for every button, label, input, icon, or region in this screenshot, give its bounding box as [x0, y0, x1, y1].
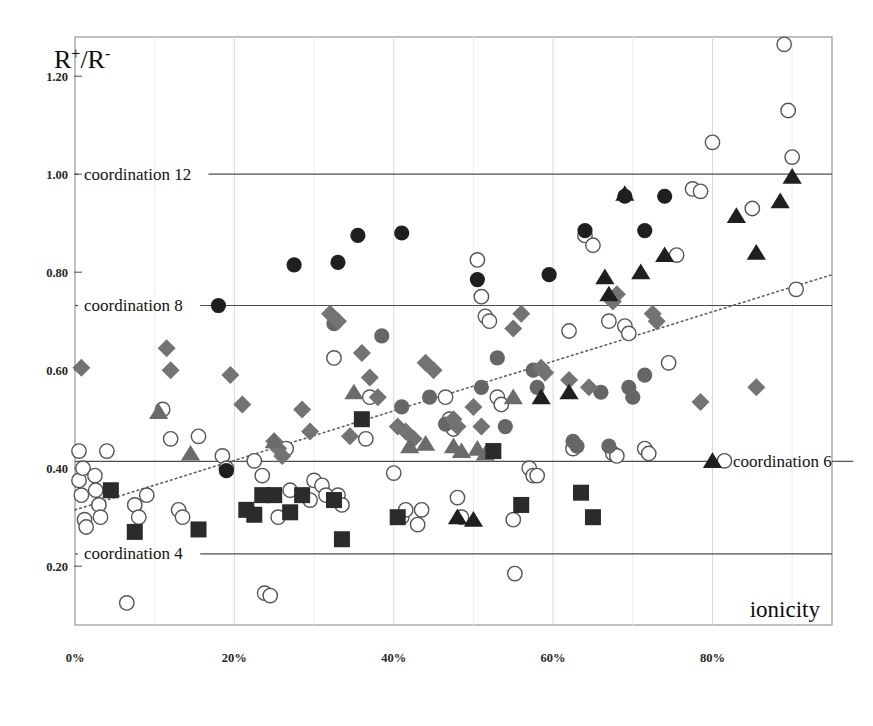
data-point [577, 223, 592, 238]
data-point [89, 483, 103, 497]
data-point [585, 509, 601, 525]
data-point [622, 326, 636, 340]
data-point [354, 411, 370, 427]
ytick-label-1: 1.00 [46, 168, 68, 182]
data-point [390, 509, 406, 525]
data-point [282, 504, 298, 520]
data-point [562, 324, 576, 338]
data-point [266, 487, 282, 503]
coordination-label-0.732: coordination 8 [84, 296, 183, 315]
data-point [219, 463, 234, 478]
data-point [661, 356, 675, 370]
data-point [175, 510, 189, 524]
xtick-label-3: 60% [541, 651, 566, 665]
data-point [508, 566, 522, 580]
data-point [470, 272, 485, 287]
plot-frame [75, 37, 832, 625]
data-point [482, 314, 496, 328]
data-point [745, 201, 759, 215]
data-point [569, 439, 584, 454]
data-point [334, 531, 350, 547]
data-point [573, 485, 589, 501]
data-point [100, 444, 114, 458]
data-point [474, 290, 488, 304]
data-point [140, 488, 154, 502]
data-point [785, 150, 799, 164]
xtick-label-0: 0% [66, 651, 85, 665]
xtick-label-1: 20% [222, 651, 247, 665]
ytick-label-3: 0.60 [46, 364, 68, 378]
data-point [642, 446, 656, 460]
data-point [72, 444, 86, 458]
ytick-label-5: 0.20 [46, 560, 68, 574]
data-point [394, 399, 409, 414]
data-point [211, 298, 226, 313]
data-point [602, 314, 616, 328]
data-point [625, 390, 640, 405]
coordination-label-0.225: coordination 4 [84, 544, 183, 563]
data-point [450, 490, 464, 504]
coordination-label-0.414: coordination 6 [733, 452, 832, 471]
data-point [132, 510, 146, 524]
y-axis-label: R+/R- [54, 45, 110, 74]
data-point [255, 468, 269, 482]
data-point [294, 487, 310, 503]
data-point [490, 350, 505, 365]
data-point [359, 432, 373, 446]
data-point [777, 37, 791, 51]
data-point [513, 497, 529, 513]
data-point [498, 419, 513, 434]
x-axis-label: ionicity [750, 597, 821, 622]
data-point [120, 596, 134, 610]
data-point [326, 492, 342, 508]
data-point [438, 390, 452, 404]
data-point [287, 257, 302, 272]
data-point [374, 328, 389, 343]
data-point [474, 380, 489, 395]
data-point [789, 282, 803, 296]
data-point [330, 255, 345, 270]
data-point [263, 588, 277, 602]
data-point [88, 468, 102, 482]
data-point [530, 468, 544, 482]
data-point [191, 429, 205, 443]
data-point [422, 390, 437, 405]
data-point [637, 223, 652, 238]
data-point [657, 189, 672, 204]
data-point [74, 488, 88, 502]
data-point [617, 189, 632, 204]
data-point [327, 351, 341, 365]
data-point [485, 443, 501, 459]
data-point [693, 184, 707, 198]
data-point [163, 432, 177, 446]
ytick-label-2: 0.80 [46, 266, 68, 280]
data-point [246, 507, 262, 523]
data-point [705, 135, 719, 149]
chart-figure: coordination 12coordination 8coordinatio… [0, 0, 873, 726]
data-point [470, 253, 484, 267]
data-point [247, 454, 261, 468]
coordination-label-1: coordination 12 [84, 165, 191, 184]
data-point [387, 466, 401, 480]
data-point [394, 225, 409, 240]
data-point [410, 517, 424, 531]
data-point [414, 503, 428, 517]
scatter-plot-svg: coordination 12coordination 8coordinatio… [0, 0, 873, 726]
data-point [103, 482, 119, 498]
data-point [93, 510, 107, 524]
data-point [494, 397, 508, 411]
data-point [637, 368, 652, 383]
xtick-label-4: 80% [700, 651, 725, 665]
data-point [506, 512, 520, 526]
data-point [191, 521, 207, 537]
data-point [586, 238, 600, 252]
xtick-label-2: 40% [381, 651, 406, 665]
ytick-label-4: 0.40 [46, 462, 68, 476]
data-point [79, 520, 93, 534]
data-point [781, 103, 795, 117]
data-point [542, 267, 557, 282]
data-point [127, 524, 143, 540]
data-point [350, 228, 365, 243]
data-point [601, 439, 616, 454]
